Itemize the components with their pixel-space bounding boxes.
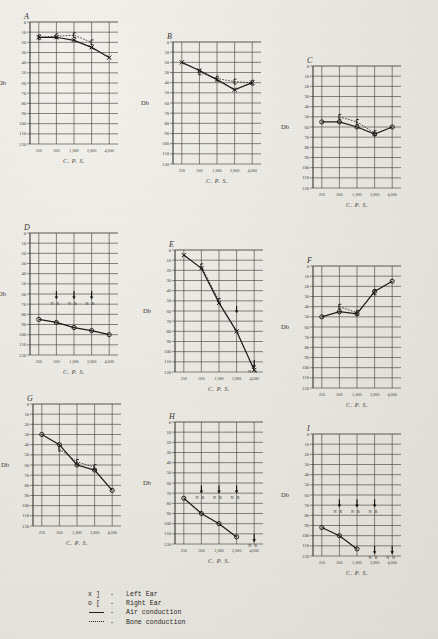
y-tick-label: 80 — [153, 329, 171, 334]
no-response-arrow-icon — [338, 499, 342, 507]
no-response-label: N R — [248, 369, 258, 374]
y-tick-label: 50 — [291, 114, 309, 119]
y-tick-label: 70 — [151, 111, 169, 116]
legend-dash: - — [110, 608, 126, 617]
x-axis-title: C. P. S. — [313, 570, 401, 576]
y-tick-label: 20 — [291, 284, 309, 289]
plot-area — [33, 404, 123, 528]
y-tick-label: 110 — [11, 513, 29, 518]
y-axis-title: Db — [141, 99, 149, 106]
y-tick-label: 30 — [153, 278, 171, 283]
plot-area — [313, 266, 403, 390]
y-tick-label: 10 — [291, 74, 309, 79]
y-tick-label: 10 — [151, 50, 169, 55]
y-axis-title: Db — [0, 79, 6, 86]
x-tick-label: 4,000 — [240, 168, 264, 173]
air-conduction-line — [184, 498, 237, 537]
y-tick-label: 30 — [291, 462, 309, 467]
legend-symbol-right-ear: o [ — [88, 599, 110, 608]
y-tick-label: 70 — [11, 473, 29, 478]
y-tick-label: 120 — [8, 142, 26, 147]
no-response-label: N R — [50, 301, 60, 306]
y-tick-label: 30 — [291, 94, 309, 99]
y-tick-label: 70 — [8, 302, 26, 307]
y-tick-label: 90 — [153, 339, 171, 344]
legend-dash: - — [110, 590, 126, 599]
y-tick-label: 60 — [153, 309, 171, 314]
audiogram-panel-c: CDbC. P. S.01020304050607080901001101202… — [313, 66, 403, 190]
y-tick-label: 70 — [153, 319, 171, 324]
audiogram-panel-a: ADbC. P. S.01020304050607080901001101202… — [30, 22, 120, 146]
y-tick-label: 50 — [11, 452, 29, 457]
no-response-label: N R — [369, 555, 379, 560]
y-tick-label: 110 — [8, 131, 26, 136]
bone-conduction-line — [201, 266, 219, 301]
audiogram-panel-i: IDbC. P. S.01020304050607080901001101202… — [313, 434, 403, 558]
y-tick-label: 40 — [291, 472, 309, 477]
y-tick-label: 30 — [291, 294, 309, 299]
y-tick-label: 60 — [11, 463, 29, 468]
x-axis-title: C. P. S. — [173, 178, 261, 184]
y-tick-label: 120 — [151, 162, 169, 167]
x-tick-label: 4,000 — [242, 376, 266, 381]
no-response-label: N R — [68, 301, 78, 306]
x-axis-title: C. P. S. — [30, 158, 118, 164]
y-tick-label: 70 — [291, 335, 309, 340]
y-tick-label: 10 — [11, 412, 29, 417]
y-tick-label: 40 — [153, 288, 171, 293]
y-tick-label: 90 — [291, 355, 309, 360]
no-response-label: N R — [86, 301, 96, 306]
legend-dash: - — [110, 599, 126, 608]
y-tick-label: 20 — [151, 60, 169, 65]
y-tick-label: 30 — [151, 70, 169, 75]
y-tick-label: 90 — [291, 155, 309, 160]
y-tick-label: 80 — [291, 513, 309, 518]
y-tick-label: 100 — [291, 165, 309, 170]
x-tick-label: 4,000 — [380, 560, 404, 565]
plot-area — [30, 22, 120, 146]
y-tick-label: 30 — [153, 450, 171, 455]
y-axis-title: Db — [281, 323, 289, 330]
y-tick-label: 90 — [153, 511, 171, 516]
y-tick-label: 110 — [151, 151, 169, 156]
no-response-label: N R — [369, 509, 379, 514]
x-tick-label: 4,000 — [380, 392, 404, 397]
y-tick-label: 40 — [8, 271, 26, 276]
no-response-label: N R — [231, 495, 241, 500]
x-axis-title: C. P. S. — [33, 540, 121, 546]
y-tick-label: 110 — [291, 175, 309, 180]
x-axis-title: C. P. S. — [175, 558, 263, 564]
legend-label-air-conduction: Air conduction — [126, 608, 181, 617]
figure-legend: x ] - Left Ear o [ - Right Ear - Air con… — [88, 590, 185, 627]
y-tick-label: 90 — [8, 322, 26, 327]
x-tick-label: 4,000 — [97, 359, 121, 364]
y-tick-label: 80 — [151, 121, 169, 126]
y-tick-label: 20 — [8, 40, 26, 45]
y-tick-label: 30 — [8, 261, 26, 266]
no-response-label: N R — [386, 555, 396, 560]
y-tick-label: 120 — [11, 524, 29, 529]
y-tick-label: 100 — [151, 141, 169, 146]
y-tick-label: 50 — [153, 470, 171, 475]
figure-sheet: ADbC. P. S.01020304050607080901001101202… — [0, 0, 438, 639]
y-tick-label: 50 — [8, 281, 26, 286]
y-tick-label: 0 — [291, 64, 309, 69]
no-response-label: N R — [351, 509, 361, 514]
legend-label-right-ear: Right Ear — [126, 599, 162, 608]
x-axis-title: C. P. S. — [175, 386, 263, 392]
y-tick-label: 0 — [153, 420, 171, 425]
y-tick-label: 60 — [151, 101, 169, 106]
no-response-label: N R — [248, 543, 258, 548]
no-response-label: N R — [195, 495, 205, 500]
y-axis-title: Db — [0, 290, 6, 297]
y-tick-label: 20 — [8, 251, 26, 256]
y-tick-label: 110 — [8, 342, 26, 347]
y-axis-title: Db — [143, 307, 151, 314]
y-tick-label: 40 — [291, 104, 309, 109]
plot-area — [30, 233, 120, 357]
x-tick-label: 4,000 — [380, 192, 404, 197]
legend-symbol-left-ear: x ] — [88, 590, 110, 599]
y-tick-label: 40 — [151, 80, 169, 85]
y-tick-label: 120 — [153, 542, 171, 547]
y-tick-label: 60 — [153, 481, 171, 486]
